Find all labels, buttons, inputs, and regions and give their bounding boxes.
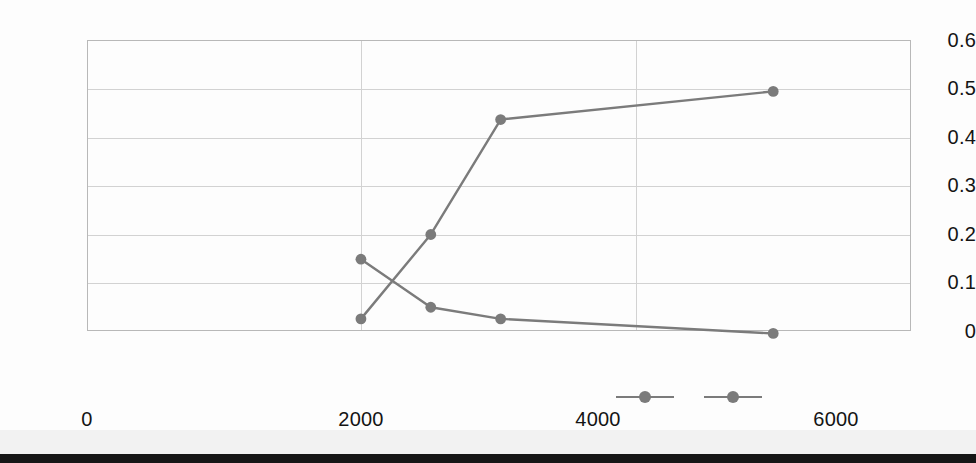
series-line-2 bbox=[361, 91, 773, 318]
data-point[interactable] bbox=[495, 114, 506, 125]
data-point[interactable] bbox=[768, 86, 779, 97]
page-bottom-strip bbox=[0, 430, 976, 454]
data-point[interactable] bbox=[768, 328, 779, 339]
page-bottom-bar bbox=[0, 454, 976, 463]
series-line-1 bbox=[361, 259, 773, 333]
line-chart: 0.6 0.5 0.4 0.3 0.2 0.1 0 0 2000 4000 60… bbox=[0, 0, 976, 463]
data-point[interactable] bbox=[356, 254, 367, 265]
data-point[interactable] bbox=[425, 229, 436, 240]
legend-marker-icon bbox=[727, 391, 739, 403]
data-point[interactable] bbox=[356, 313, 367, 324]
legend-marker-icon bbox=[639, 391, 651, 403]
series-layer bbox=[0, 0, 976, 463]
data-point[interactable] bbox=[495, 313, 506, 324]
legend-item-series-1[interactable] bbox=[616, 389, 674, 405]
data-point[interactable] bbox=[425, 302, 436, 313]
legend-item-series-2[interactable] bbox=[704, 389, 762, 405]
